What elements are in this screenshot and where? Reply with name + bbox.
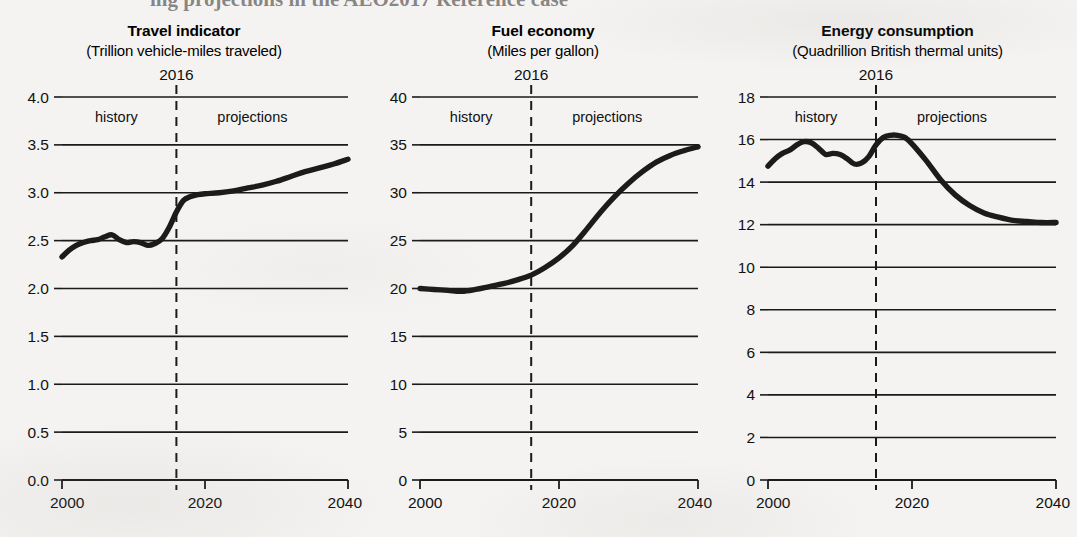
ytick-label-18: 18 [738,89,755,106]
xtick-label-2020: 2020 [542,494,577,511]
projections-label: projections [217,109,287,125]
chart-panel-energy-consumption: Energy consumption (Quadrillion British … [718,0,1077,537]
ytick-label-0.5: 0.5 [27,424,49,441]
xtick-label-2020: 2020 [188,494,223,511]
chart-panel-container: Travel indicator (Trillion vehicle-miles… [0,0,1077,537]
xtick-label-2000: 2000 [756,494,791,511]
ytick-label-0: 0 [398,472,407,489]
ytick-label-5: 5 [398,424,407,441]
history-label: history [450,109,493,125]
chart-plot-travel-indicator: 0.00.51.01.52.02.53.03.54.02000202020402… [0,0,368,537]
history-label: history [95,109,138,125]
ytick-label-4: 4 [746,386,755,403]
ytick-label-12: 12 [738,216,755,233]
xtick-label-2000: 2000 [408,494,443,511]
xtick-label-2000: 2000 [50,494,85,511]
chart-plot-fuel-economy: 05101520253035402000202020402016historyp… [368,0,718,537]
xtick-label-2040: 2040 [1036,494,1071,511]
projections-label: projections [572,109,642,125]
ytick-label-30: 30 [390,184,408,201]
ytick-label-4.0: 4.0 [27,89,49,106]
ytick-label-2: 2 [746,429,755,446]
ytick-label-3.5: 3.5 [27,136,49,153]
ytick-label-14: 14 [738,174,756,191]
ytick-label-16: 16 [738,131,755,148]
ytick-label-8: 8 [746,301,755,318]
ytick-label-0.0: 0.0 [27,472,49,489]
ytick-label-1.0: 1.0 [27,376,49,393]
ytick-label-25: 25 [390,232,407,249]
chart-plot-energy-consumption: 0246810121416182000202020402016historypr… [718,0,1077,537]
projections-label: projections [917,109,987,125]
ytick-label-20: 20 [390,280,408,297]
ytick-label-40: 40 [390,89,408,106]
data-series-line [768,135,1056,223]
chart-panel-travel-indicator: Travel indicator (Trillion vehicle-miles… [0,0,368,537]
history-label: history [795,109,838,125]
divider-year-label: 2016 [859,66,893,83]
data-series-line [62,159,348,257]
xtick-label-2040: 2040 [678,494,713,511]
ytick-label-3.0: 3.0 [27,184,49,201]
ytick-label-10: 10 [738,259,756,276]
data-series-line [420,147,698,292]
ytick-label-2.5: 2.5 [27,232,49,249]
ytick-label-2.0: 2.0 [27,280,49,297]
chart-panel-fuel-economy: Fuel economy (Miles per gallon) 05101520… [368,0,718,537]
divider-year-label: 2016 [159,66,193,83]
xtick-label-2040: 2040 [328,494,363,511]
ytick-label-35: 35 [390,136,407,153]
ytick-label-1.5: 1.5 [27,328,49,345]
ytick-label-0: 0 [746,472,755,489]
ytick-label-6: 6 [746,344,755,361]
ytick-label-10: 10 [390,376,408,393]
ytick-label-15: 15 [390,328,407,345]
xtick-label-2020: 2020 [895,494,930,511]
divider-year-label: 2016 [514,66,548,83]
